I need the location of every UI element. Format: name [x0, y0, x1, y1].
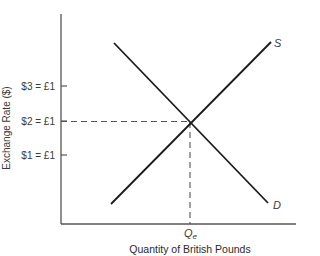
supply-curve	[111, 42, 271, 204]
y-tick-label-1: $1 = £1	[21, 150, 55, 161]
exchange-rate-diagram: $3 = £1 $2 = £1 $1 = £1 Exchange Rate ($…	[0, 0, 320, 256]
y-axis-title: Exchange Rate ($)	[1, 86, 12, 169]
supply-label: S	[274, 37, 282, 49]
y-tick-label-3: $3 = £1	[21, 81, 55, 92]
qe-subscript: e	[193, 232, 198, 241]
y-tick-label-2: $2 = £1	[21, 116, 55, 127]
demand-label: D	[273, 199, 281, 211]
qe-label: Qe	[184, 227, 198, 241]
x-axis-title: Quantity of British Pounds	[129, 243, 250, 255]
